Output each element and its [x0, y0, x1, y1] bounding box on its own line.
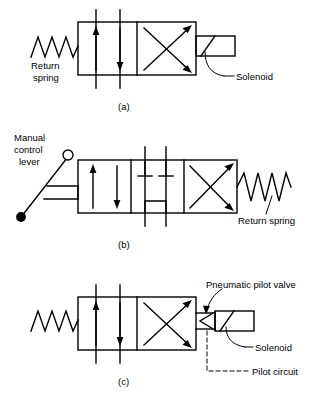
flow-arrow-b-cross-2 — [225, 203, 235, 211]
diagram-c — [31, 285, 254, 371]
return-spring-label-a-line2: spring — [33, 72, 59, 83]
figure-canvas: Return spring Solenoid (a) Manual contro… — [0, 0, 310, 396]
flow-arrow-b-down — [114, 200, 121, 209]
solenoid-label-a: Solenoid — [236, 71, 273, 82]
solenoid-label-c: Solenoid — [255, 342, 292, 353]
solenoid-diagonal-c — [220, 311, 234, 331]
manual-lever-label-line2: control — [14, 144, 43, 155]
pneumatic-pilot-valve-leader — [207, 289, 222, 311]
return-spring-label-b: Return spring — [238, 215, 295, 226]
manual-lever-knob-icon — [63, 150, 73, 160]
valve-symbols-figure: Return spring Solenoid (a) Manual contro… — [0, 0, 310, 396]
flow-arrow-c-down — [117, 337, 124, 346]
caption-b: (b) — [118, 239, 130, 250]
caption-a: (a) — [118, 101, 130, 112]
solenoid-diagonal-a — [201, 36, 215, 56]
flow-arrow-c-up — [93, 301, 100, 310]
blocked-port-b-lower-u — [145, 201, 166, 213]
flow-arrow-a-up — [93, 26, 100, 35]
manual-lever-label-line3: lever — [19, 156, 40, 167]
return-spring-icon — [31, 37, 78, 57]
solenoid-icon-a — [196, 36, 235, 56]
flow-arrow-a-down — [117, 62, 124, 71]
return-spring-leader-b — [266, 196, 272, 214]
pneumatic-pilot-valve-label: Pneumatic pilot valve — [206, 279, 296, 290]
return-spring-label-a-line1: Return — [31, 60, 60, 71]
manual-lever-label-line1: Manual — [14, 132, 45, 143]
diagram-a — [31, 10, 235, 88]
pilot-circuit-label: Pilot circuit — [252, 366, 298, 377]
solenoid-icon-c — [215, 311, 254, 331]
flow-arrow-b-up — [90, 164, 97, 173]
valve-body-b — [78, 160, 237, 213]
caption-c: (c) — [118, 376, 129, 387]
flow-arrow-b-cross-1 — [225, 163, 235, 171]
pneumatic-pilot-valve-icon — [200, 312, 215, 330]
manual-lever-pivot-icon — [17, 213, 25, 221]
return-spring-icon-c — [31, 311, 78, 331]
return-spring-icon-b — [237, 173, 291, 201]
solenoid-leader-c — [226, 327, 245, 347]
